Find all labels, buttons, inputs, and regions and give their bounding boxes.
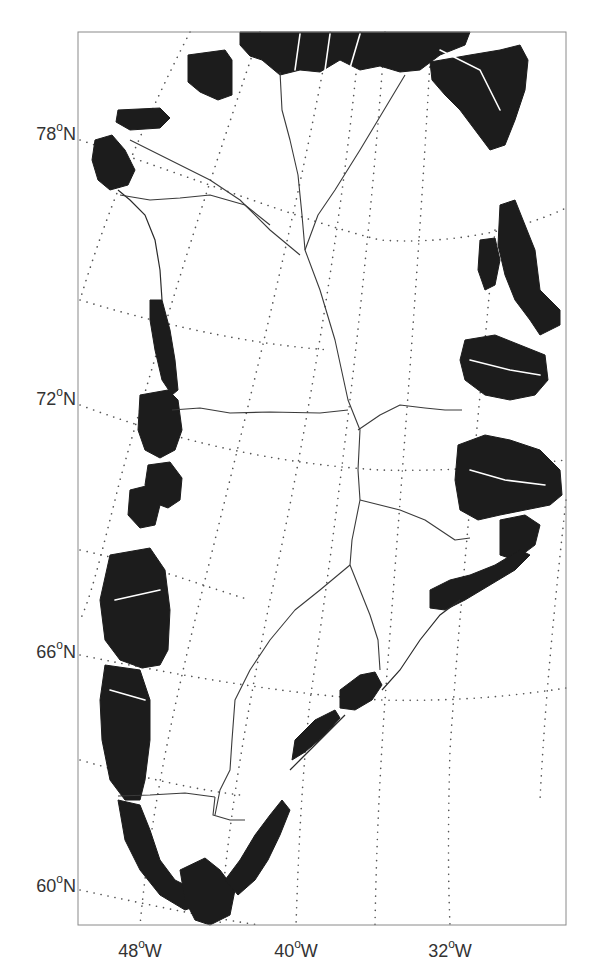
land-northeast <box>430 45 528 150</box>
lat-label-60n: 60oN <box>36 875 76 895</box>
land-west-central <box>100 548 170 668</box>
lat-label-72n: 72oN <box>36 388 76 408</box>
land-west-strip-upper <box>150 300 178 395</box>
divide-west-72n <box>172 408 348 413</box>
land-west-south <box>100 665 150 800</box>
ice-free-land <box>92 32 562 925</box>
land-scoresby-south <box>455 435 562 520</box>
land-scoresby-north <box>460 335 548 400</box>
divide-northwest-lower <box>120 195 270 225</box>
lat-label-78n: 78oN <box>36 123 76 143</box>
divide-east-72n <box>358 405 462 430</box>
meridian-52w <box>80 32 260 620</box>
land-southeast-strip <box>430 550 530 610</box>
land-east-island <box>478 238 500 290</box>
lat-label-66n: 66oN <box>36 641 76 661</box>
lon-label-48w: 48oW <box>118 940 162 960</box>
greenland-map <box>0 0 596 978</box>
land-south-tip <box>180 858 235 925</box>
coast-east-mid <box>382 600 460 690</box>
land-northwest-islands <box>92 135 135 190</box>
land-southeast-lower <box>340 672 382 710</box>
land-northwest-cape <box>116 108 170 130</box>
coast-west-upper <box>118 190 162 300</box>
lon-label-40w: 40oW <box>274 940 318 960</box>
divide-north-east-branch <box>305 75 405 250</box>
meridian-36w <box>375 60 430 925</box>
parallel-63n <box>80 760 240 795</box>
divide-east-70n <box>360 500 470 540</box>
land-north-island <box>188 50 232 100</box>
meridian-40w <box>296 32 385 925</box>
land-east-coast-north <box>498 200 560 335</box>
meridian-44w <box>220 32 360 925</box>
parallel-75n <box>80 300 330 350</box>
lon-label-32w: 32oW <box>428 940 472 960</box>
land-southeast-fringe <box>292 710 340 760</box>
meridian-28w <box>540 500 566 800</box>
land-southeast-coast <box>225 800 290 895</box>
divide-main-north-south <box>280 72 360 565</box>
land-disko-area <box>138 390 182 458</box>
parallel-78n <box>80 140 566 241</box>
divide-southeast <box>350 565 380 670</box>
divide-northwest-branch <box>130 140 300 255</box>
